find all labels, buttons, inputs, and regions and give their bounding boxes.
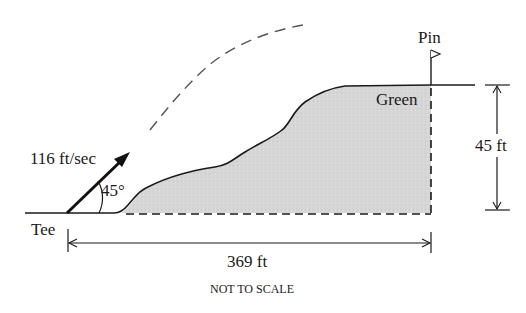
height-label: 45 ft (475, 136, 507, 155)
golf-diagram: Pin Green 116 ft/sec 45° Tee 45 ft 369 f… (0, 0, 526, 313)
pin-flag-icon (431, 50, 440, 58)
angle-label: 45° (101, 181, 125, 200)
scale-note: NOT TO SCALE (210, 282, 294, 296)
pin-label: Pin (418, 28, 441, 47)
green-label: Green (376, 90, 418, 109)
velocity-label: 116 ft/sec (30, 149, 96, 168)
distance-label: 369 ft (227, 252, 267, 271)
trajectory-path (150, 25, 303, 130)
tee-label: Tee (31, 220, 55, 239)
